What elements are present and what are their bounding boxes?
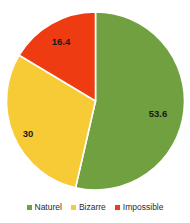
legend-item-impossible[interactable]: Impossible	[115, 203, 164, 212]
slice-label-naturel: 53.6	[149, 108, 168, 119]
legend-swatch-icon	[115, 205, 120, 210]
legend-item-label: Impossible	[123, 203, 164, 212]
pie-plot-area: 53.6 30 16.4	[0, 0, 190, 196]
slice-label-bizarre: 30	[23, 128, 34, 139]
legend-swatch-icon	[71, 205, 76, 210]
legend-item-label: Bizarre	[79, 203, 106, 212]
chart-legend: NaturelBizarreImpossible	[0, 196, 190, 218]
legend-item-naturel[interactable]: Naturel	[27, 203, 62, 212]
legend-item-label: Naturel	[35, 203, 62, 212]
pie-slice-group	[6, 12, 184, 190]
legend-item-bizarre[interactable]: Bizarre	[71, 203, 106, 212]
legend-swatch-icon	[27, 205, 32, 210]
pie-svg: 53.6 30 16.4	[0, 0, 190, 196]
pie-chart: 53.6 30 16.4 NaturelBizarreImpossible	[0, 0, 190, 223]
slice-label-impossible: 16.4	[52, 36, 71, 47]
